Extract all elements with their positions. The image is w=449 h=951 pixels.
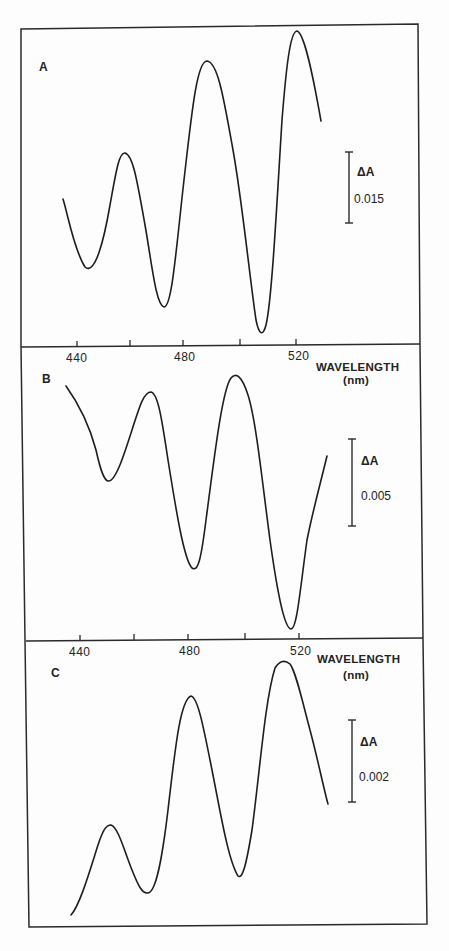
panel-c: C ΔA 0.002 (51, 661, 389, 915)
tick-label-520: 520 (288, 349, 310, 363)
scale-value-b: 0.005 (361, 489, 391, 503)
scale-symbol-a: ΔA (357, 165, 375, 179)
tick-label-480: 480 (174, 350, 196, 364)
x-axis-a: 440 480 520 WAVELENGTH (nm) (21, 339, 420, 386)
scale-symbol-b: ΔA (361, 454, 379, 468)
panel-label-a: A (39, 60, 48, 74)
panel-label-c: C (51, 666, 60, 680)
tick-label-440: 440 (66, 351, 88, 365)
scale-bar-c: ΔA 0.002 (348, 720, 389, 802)
x-axis-b: 440 480 520 WAVELENGTH (nm) (26, 633, 423, 681)
spectra-figure: 440 480 520 WAVELENGTH (nm) 440 480 520 … (0, 0, 449, 951)
scale-value-c: 0.002 (359, 770, 389, 784)
figure-frame (21, 24, 427, 927)
axis-unit: (nm) (343, 374, 369, 386)
tick-label-520: 520 (290, 644, 312, 658)
scale-bar-b: ΔA 0.005 (348, 439, 391, 526)
scale-bar-a: ΔA 0.015 (345, 152, 384, 223)
tick-label-440: 440 (69, 645, 91, 659)
scale-value-a: 0.015 (354, 192, 384, 206)
axis-title: WAVELENGTH (316, 361, 399, 373)
spectrum-curve-c (71, 661, 328, 915)
panel-label-b: B (42, 372, 51, 386)
panel-a: A ΔA 0.015 (39, 31, 384, 333)
scale-symbol-c: ΔA (360, 735, 378, 749)
panel-b: B ΔA 0.005 (42, 372, 391, 629)
spectrum-curve-b (66, 375, 327, 629)
tick-label-480: 480 (179, 644, 201, 658)
axis-title: WAVELENGTH (317, 653, 400, 665)
axis-unit: (nm) (343, 669, 369, 681)
spectrum-curve-a (63, 31, 321, 333)
